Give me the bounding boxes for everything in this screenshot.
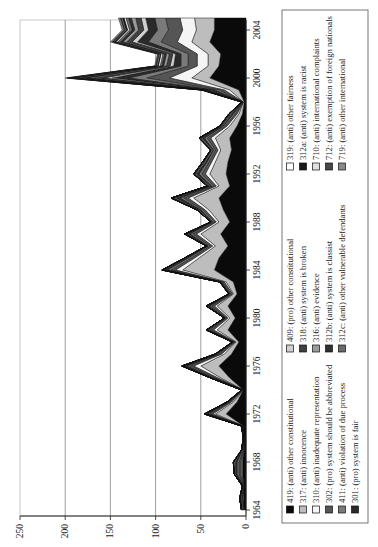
legend-swatch [326,506,333,513]
stacked-area-chart: 1964196819721976198019841988199219962000… [0,0,378,547]
legend-label: 312b: (anti) system is classist [324,240,334,342]
legend-item: 317: (anti) innocence [298,430,308,513]
legend-swatch [300,506,307,513]
legend-item: 318: (anti) system is broken [298,245,308,352]
legend-label: 712: (anti) exemption of foreign nationa… [324,15,334,160]
year-tick-label: 1988 [252,212,262,231]
year-tick-label: 1992 [252,164,262,183]
year-tick-label: 2000 [252,68,262,87]
legend: 419: (anti) other constitutional317: (an… [282,10,368,523]
legend-label: 318: (anti) system is broken [298,245,308,342]
legend-label: 319: (anti) other fairness [285,75,295,160]
legend-item: 310: (anti) inadequate representation [311,376,321,513]
legend-label: 317: (anti) innocence [298,430,308,503]
year-tick-label: 1968 [252,452,262,471]
legend-item: 312a: (anti) system is racist [298,65,308,170]
value-tick-label: 250 [15,524,25,539]
value-tick-label: 0 [241,524,251,529]
legend-swatch [313,345,320,352]
legend-label: 409: (pro) other constitutional [285,238,295,342]
legend-label: 719: (anti) other international [337,58,347,160]
legend-swatch [313,506,320,513]
legend-label: 316: (anti) evidence [311,273,321,342]
year-tick-label: 1996 [252,116,262,135]
legend-swatch [300,163,307,170]
legend-swatch [326,163,333,170]
legend-swatch [313,163,320,170]
legend-item: 319: (anti) other fairness [285,75,295,170]
legend-swatch [287,345,294,352]
legend-swatch [352,506,359,513]
value-tick-label: 200 [60,524,70,539]
year-tick-label: 1964 [252,500,262,519]
value-tick-label: 100 [151,524,161,539]
legend-swatch [287,163,294,170]
legend-label: 301: (pro) system is fair [350,420,360,503]
legend-item: 710: (anti) international complaints [311,38,321,170]
legend-label: 411: (anti) violation of due process [337,382,347,503]
legend-item: 409: (pro) other constitutional [285,238,295,352]
legend-label: 710: (anti) international complaints [311,38,321,160]
value-tick-label: 150 [105,524,115,539]
value-tick-label: 50 [196,524,206,534]
legend-item: 712: (anti) exemption of foreign nationa… [324,15,334,170]
year-tick-label: 1976 [252,356,262,375]
legend-item: 312b: (anti) system is classist [324,240,334,352]
legend-swatch [339,163,346,170]
legend-item: 301: (pro) system is fair [350,420,360,513]
year-tick-label: 1972 [252,404,262,423]
legend-swatch [326,345,333,352]
legend-item: 719: (anti) other international [337,58,347,170]
legend-swatch [300,345,307,352]
legend-item: 316: (anti) evidence [311,273,321,352]
legend-label: 310: (anti) inadequate representation [311,376,321,503]
legend-swatch [339,345,346,352]
legend-label: 312c: (anti) other vulnerable defendants [337,204,347,342]
legend-label: 419: (anti) other constitutional [285,398,295,503]
legend-label: 302: (pro) system should be abbreviated [324,364,334,503]
legend-item: 419: (anti) other constitutional [285,398,295,513]
year-tick-label: 1984 [252,260,262,279]
year-tick-label: 2004 [252,20,262,39]
legend-swatch [339,506,346,513]
legend-item: 411: (anti) violation of due process [337,382,347,513]
year-tick-label: 1980 [252,308,262,327]
legend-item: 302: (pro) system should be abbreviated [324,364,334,513]
legend-label: 312a: (anti) system is racist [298,65,308,160]
legend-swatch [287,506,294,513]
legend-item: 312c: (anti) other vulnerable defendants [337,204,347,352]
